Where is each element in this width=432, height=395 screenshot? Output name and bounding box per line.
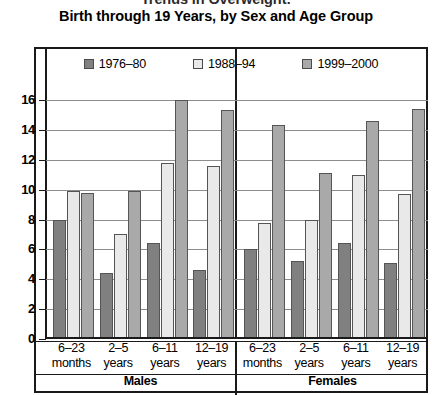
group-labels: Males Females	[46, 374, 428, 392]
gridline-16	[46, 100, 428, 101]
category-label-line2: years	[372, 356, 432, 371]
y-tick-6	[39, 249, 46, 250]
bar-females-cat2-series2	[366, 121, 379, 339]
plot-area	[46, 100, 428, 339]
y-tick-label-6: 6	[13, 241, 35, 256]
y-tick-10	[39, 190, 46, 191]
y-tick-8	[39, 220, 46, 221]
y-tick-16	[39, 100, 46, 101]
chart-title-line-1: Trends in Overweight:	[0, 0, 432, 8]
y-tick-label-4: 4	[13, 271, 35, 286]
y-axis-line	[45, 47, 47, 339]
legend-item-1999-2000: 1999–2000	[302, 57, 378, 71]
bar-males-cat3-series1	[207, 166, 220, 339]
category-label-females-3: 12–19years	[372, 341, 432, 371]
bar-females-cat1-series1	[305, 220, 318, 340]
chart-legend: 1976–80 1988–94 1999–2000	[34, 50, 428, 78]
bar-males-cat0-series2	[81, 193, 94, 339]
bar-males-cat0-series1	[67, 191, 80, 339]
y-tick-4	[39, 279, 46, 280]
chart-title: Trends in Overweight: Birth through 19 Y…	[0, 0, 432, 25]
group-label-females: Females	[237, 374, 428, 388]
bar-females-cat3-series0	[384, 263, 397, 339]
y-tick-label-8: 8	[13, 212, 35, 227]
legend-item-1976-80: 1976–80	[84, 57, 146, 71]
legend-item-1988-94: 1988–94	[193, 57, 255, 71]
bar-males-cat2-series0	[147, 243, 160, 339]
y-tick-label-10: 10	[13, 182, 35, 197]
bar-females-cat1-series2	[319, 173, 332, 339]
legend-label-1976-80: 1976–80	[99, 57, 146, 71]
bar-females-cat0-series1	[258, 223, 271, 340]
y-tick-2	[39, 309, 46, 310]
group-label-males: Males	[46, 374, 235, 388]
legend-swatch-icon-1976-80	[84, 59, 94, 69]
category-labels: 6–23months2–5years6–11years12–19years6–2…	[46, 341, 428, 377]
bar-females-cat3-series2	[412, 109, 425, 339]
x-axis-line	[46, 337, 428, 339]
y-tick-0	[39, 339, 46, 340]
legend-label-1999-2000: 1999–2000	[317, 57, 378, 71]
bar-females-cat2-series0	[338, 243, 351, 339]
bar-females-cat2-series1	[352, 175, 365, 339]
y-tick-label-0: 0	[13, 331, 35, 346]
y-tick-12	[39, 160, 46, 161]
bar-males-cat1-series2	[128, 191, 141, 339]
bar-males-cat0-series0	[53, 220, 66, 340]
legend-swatch-icon-1999-2000	[302, 59, 312, 69]
bar-females-cat1-series0	[291, 261, 304, 339]
legend-swatch-icon-1988-94	[193, 59, 203, 69]
chart-title-line-2: Birth through 19 Years, by Sex and Age G…	[0, 8, 432, 25]
bar-males-cat1-series1	[114, 234, 127, 339]
bar-males-cat3-series0	[193, 270, 206, 339]
bar-males-cat2-series1	[161, 163, 174, 339]
category-label-line1: 12–19	[372, 341, 432, 356]
y-tick-14	[39, 130, 46, 131]
bar-females-cat0-series0	[244, 249, 257, 339]
y-tick-label-2: 2	[13, 301, 35, 316]
y-tick-label-16: 16	[13, 92, 35, 107]
bar-females-cat3-series1	[398, 194, 411, 339]
bar-males-cat3-series2	[221, 110, 234, 339]
bar-males-cat1-series0	[100, 273, 113, 339]
bar-females-cat0-series2	[272, 125, 285, 339]
legend-label-1988-94: 1988–94	[208, 57, 255, 71]
y-tick-label-14: 14	[13, 122, 35, 137]
y-tick-label-12: 12	[13, 152, 35, 167]
sex-group-divider	[235, 47, 237, 339]
bar-males-cat2-series2	[175, 100, 188, 339]
